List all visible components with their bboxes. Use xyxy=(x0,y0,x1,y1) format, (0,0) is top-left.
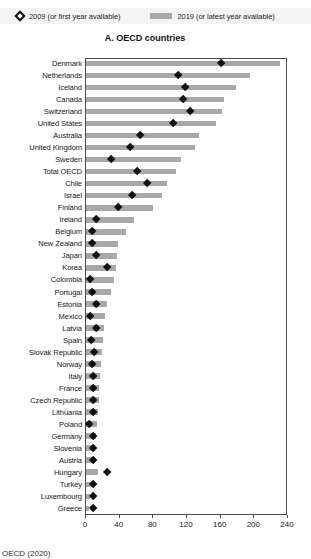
x-tick-label-160: 160 xyxy=(213,520,226,529)
chart-row: Greece xyxy=(0,503,311,515)
row-label-ireland: Ireland xyxy=(59,214,82,226)
row-label-estonia: Estonia xyxy=(57,299,82,311)
chart-row: Iceland xyxy=(0,82,311,94)
chart-rows: DenmarkNetherlandsIcelandCanadaSwitzerla… xyxy=(0,58,311,515)
chart-row: Spain xyxy=(0,335,311,347)
row-label-iceland: Iceland xyxy=(58,82,82,94)
bar-2019 xyxy=(86,121,216,127)
bar-2019 xyxy=(86,169,176,175)
bar-2019 xyxy=(86,85,236,91)
chart-row: Mexico xyxy=(0,311,311,323)
source-note: OECD (2020) xyxy=(2,549,50,558)
chart-row: Turkey xyxy=(0,479,311,491)
bar-2019 xyxy=(86,97,224,103)
x-tick-label-120: 120 xyxy=(179,520,192,529)
row-label-netherlands: Netherlands xyxy=(42,70,82,82)
chart-row: Norway xyxy=(0,359,311,371)
x-tick xyxy=(85,515,86,518)
chart-row: Canada xyxy=(0,94,311,106)
x-axis: 04080120160200240 xyxy=(85,515,287,541)
x-tick xyxy=(220,515,221,518)
chart-row: Denmark xyxy=(0,58,311,70)
legend-item-2019: 2019 (or latest year available) xyxy=(150,12,274,21)
chart-row: Netherlands xyxy=(0,70,311,82)
chart-row: Finland xyxy=(0,202,311,214)
bar-2019 xyxy=(86,469,98,475)
bar-2019 xyxy=(86,193,162,199)
row-label-chile: Chile xyxy=(65,178,82,190)
x-tick-label-200: 200 xyxy=(247,520,260,529)
row-label-japan: Japan xyxy=(62,250,82,262)
bar-2019 xyxy=(86,157,181,163)
row-label-israel: Israel xyxy=(64,190,82,202)
row-label-australia: Australia xyxy=(53,130,82,142)
chart-row: Estonia xyxy=(0,299,311,311)
chart-row: Sweden xyxy=(0,154,311,166)
legend-item-2009: 2009 (or first year available) xyxy=(16,12,120,21)
x-tick xyxy=(287,515,288,518)
chart-row: Israel xyxy=(0,190,311,202)
row-label-spain: Spain xyxy=(63,335,82,347)
chart-row: Italy xyxy=(0,371,311,383)
row-label-greece: Greece xyxy=(58,503,82,515)
row-label-germany: Germany xyxy=(51,431,82,443)
chart-row: Lithuania xyxy=(0,407,311,419)
bar-2019 xyxy=(86,265,116,271)
diamond-marker-2009 xyxy=(89,431,98,440)
chart-row: United Kingdom xyxy=(0,142,311,154)
row-label-poland: Poland xyxy=(59,419,82,431)
diamond-marker-icon xyxy=(14,10,25,21)
x-tick xyxy=(186,515,187,518)
chart-row: New Zealand xyxy=(0,238,311,250)
x-tick-label-40: 40 xyxy=(114,520,123,529)
chart-row: Germany xyxy=(0,431,311,443)
x-tick-label-0: 0 xyxy=(83,520,87,529)
row-label-total-oecd: Total OECD xyxy=(43,166,82,178)
diamond-marker-2009 xyxy=(89,504,98,513)
chart-legend: 2009 (or first year available) 2019 (or … xyxy=(0,8,311,24)
chart-title: A. OECD countries xyxy=(0,33,290,43)
bar-2019 xyxy=(86,253,117,259)
row-label-italy: Italy xyxy=(69,371,82,383)
chart-row: Japan xyxy=(0,250,311,262)
row-label-mexico: Mexico xyxy=(59,311,82,323)
x-tick-label-240: 240 xyxy=(280,520,293,529)
x-tick-label-80: 80 xyxy=(148,520,157,529)
bar-2019 xyxy=(86,181,167,187)
row-label-united-states: United States xyxy=(38,118,82,130)
chart-row: Czech Republic xyxy=(0,395,311,407)
row-label-latvia: Latvia xyxy=(62,323,82,335)
diamond-marker-2009 xyxy=(89,492,98,501)
bar-2019 xyxy=(86,73,250,79)
bar-2019 xyxy=(86,145,195,151)
chart-row: Chile xyxy=(0,178,311,190)
chart-row: Latvia xyxy=(0,323,311,335)
chart-row: Australia xyxy=(0,130,311,142)
row-label-canada: Canada xyxy=(56,94,82,106)
diamond-marker-2009 xyxy=(89,444,98,453)
row-label-new-zealand: New Zealand xyxy=(38,238,82,250)
chart-row: United States xyxy=(0,118,311,130)
row-label-france: France xyxy=(59,383,82,395)
bar-2019 xyxy=(86,61,280,67)
row-label-slovenia: Slovenia xyxy=(54,443,82,455)
chart-row: Slovenia xyxy=(0,443,311,455)
row-label-czech-republic: Czech Republic xyxy=(30,395,82,407)
chart-row: Portugal xyxy=(0,287,311,299)
bar-2019 xyxy=(86,109,222,115)
bar-swatch-icon xyxy=(150,13,172,19)
row-label-switzerland: Switzerland xyxy=(44,106,82,118)
chart-row: France xyxy=(0,383,311,395)
chart-row: Austria xyxy=(0,455,311,467)
chart-row: Ireland xyxy=(0,214,311,226)
x-tick xyxy=(152,515,153,518)
x-tick xyxy=(253,515,254,518)
row-label-turkey: Turkey xyxy=(60,479,82,491)
chart-row: Belgium xyxy=(0,226,311,238)
chart-row: Colombia xyxy=(0,274,311,286)
x-tick xyxy=(119,515,120,518)
row-label-norway: Norway xyxy=(57,359,82,371)
row-label-sweden: Sweden xyxy=(55,154,82,166)
row-label-finland: Finland xyxy=(58,202,82,214)
chart-row: Slovak Republic xyxy=(0,347,311,359)
